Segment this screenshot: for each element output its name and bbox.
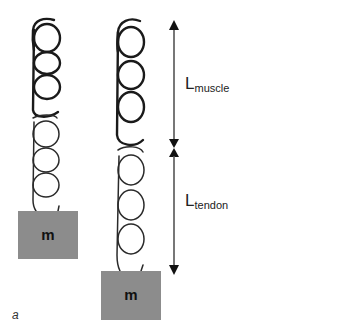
panel-label: a — [12, 308, 19, 322]
right-tendon-spring — [117, 147, 144, 271]
muscle-length-label: Lmuscle — [185, 74, 229, 94]
tendon-length-label: Ltendon — [185, 191, 228, 211]
tendon-length-arrow — [169, 148, 179, 275]
right-spring-system: m — [101, 19, 161, 320]
right-mass-label: m — [124, 286, 137, 303]
arrowhead-down-icon — [169, 265, 179, 275]
left-tendon-spring — [33, 115, 59, 211]
muscle-tendon-spring-diagram: m m — [0, 0, 340, 335]
left-spring-system: m — [18, 19, 78, 259]
muscle-length-arrow — [169, 20, 179, 148]
arrowhead-down-icon — [169, 139, 179, 148]
dimension-arrows — [169, 20, 179, 275]
right-muscle-spring — [117, 19, 144, 144]
arrowhead-up-icon — [169, 20, 179, 30]
left-mass-label: m — [41, 226, 54, 243]
arrowhead-up-icon — [169, 148, 179, 157]
left-muscle-spring — [33, 19, 60, 117]
